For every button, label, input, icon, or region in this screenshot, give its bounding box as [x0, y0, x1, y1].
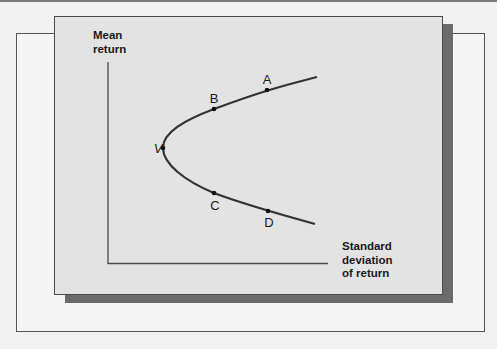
point-D-label: D	[264, 215, 273, 230]
point-D-dot	[266, 209, 271, 214]
frontier-plot: A B V C D	[0, 0, 497, 349]
point-C-label: C	[210, 198, 219, 213]
point-B-label: B	[210, 91, 219, 106]
frontier-curve	[163, 77, 317, 224]
point-C-dot	[212, 191, 217, 196]
point-A-dot	[265, 88, 270, 93]
point-V-label: V	[154, 141, 164, 156]
point-B-dot	[212, 107, 217, 112]
point-A-label: A	[263, 72, 272, 87]
